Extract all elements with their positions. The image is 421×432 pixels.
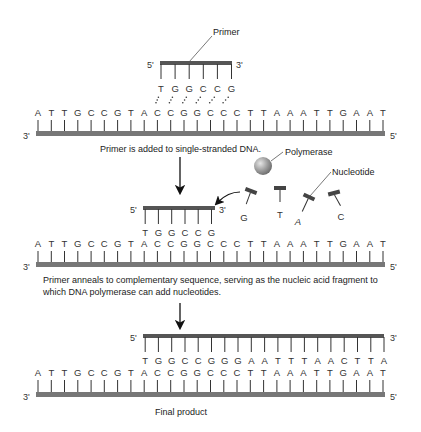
template-base: T bbox=[247, 238, 253, 249]
template-base: T bbox=[48, 367, 54, 378]
template-base: T bbox=[327, 238, 333, 249]
template-base: C bbox=[234, 367, 241, 378]
primer-strand: 5' 3' TGGCCG bbox=[147, 60, 243, 94]
primer-5-prime-label: 5' bbox=[130, 205, 137, 215]
template-base: T bbox=[314, 367, 320, 378]
primer-base: C bbox=[214, 83, 221, 94]
template-base: T bbox=[62, 107, 68, 118]
template-base: A bbox=[367, 238, 374, 249]
template-strand: ATTGCCGTACCGGCCCTTAAATTGAAT 3' 5' bbox=[23, 238, 397, 272]
template-base: C bbox=[234, 107, 241, 118]
primer-base: G bbox=[155, 227, 162, 238]
template-base: C bbox=[101, 238, 108, 249]
panel-1: Primer 5' 3' TGGCCG ATTGCCGTACCGGCCCTTAA… bbox=[23, 27, 397, 154]
free-nucleotide-g bbox=[241, 187, 258, 206]
template-base: G bbox=[114, 107, 121, 118]
template-3-prime-label: 3' bbox=[23, 262, 30, 272]
template-base: C bbox=[167, 367, 174, 378]
new-strand-3-prime-label: 3' bbox=[390, 333, 397, 343]
template-base: C bbox=[207, 107, 214, 118]
template-base: G bbox=[180, 367, 187, 378]
primer-label: Primer bbox=[213, 27, 240, 37]
template-base: T bbox=[261, 107, 267, 118]
template-base: G bbox=[114, 238, 121, 249]
template-base: A bbox=[300, 107, 307, 118]
template-base: A bbox=[35, 238, 42, 249]
template-base: T bbox=[62, 367, 68, 378]
new-strand-base: T bbox=[288, 355, 294, 366]
template-base: G bbox=[340, 367, 347, 378]
template-base: G bbox=[74, 107, 81, 118]
template-base: T bbox=[247, 107, 253, 118]
template-base: T bbox=[128, 107, 134, 118]
template-base: C bbox=[101, 107, 108, 118]
template-base: T bbox=[247, 367, 253, 378]
template-base: A bbox=[353, 238, 360, 249]
template-base: A bbox=[353, 367, 360, 378]
template-base: A bbox=[141, 367, 148, 378]
new-strand-base: T bbox=[301, 355, 307, 366]
curved-add-arrow bbox=[218, 192, 240, 202]
template-base: A bbox=[274, 107, 281, 118]
template-base: T bbox=[128, 238, 134, 249]
template-base: A bbox=[367, 107, 374, 118]
new-strand-base: T bbox=[355, 355, 361, 366]
template-base: T bbox=[327, 107, 333, 118]
new-strand-base: G bbox=[234, 355, 241, 366]
new-strand-base: T bbox=[275, 355, 281, 366]
template-base: A bbox=[367, 367, 374, 378]
primer-base: C bbox=[182, 227, 189, 238]
template-base: A bbox=[287, 367, 294, 378]
free-nucleotide-t bbox=[274, 186, 286, 202]
primer-base: G bbox=[168, 227, 175, 238]
template-strand: ATTGCCGTACCGGCCCTTAAATTGAAT 3' 5' bbox=[23, 107, 397, 141]
template-base: C bbox=[234, 238, 241, 249]
new-strand-base: C bbox=[195, 355, 202, 366]
template-base: C bbox=[220, 107, 227, 118]
new-strand: 5' 3' TGGCCGGGAATTTAACTTA bbox=[130, 333, 397, 366]
panel-2: Polymerase Nucleotide G T A C 5' 3' bbox=[23, 147, 397, 297]
template-backbone bbox=[36, 392, 385, 397]
primer-label-leader bbox=[189, 36, 212, 62]
annealed-primer: 5' 3' TGGCCG bbox=[130, 205, 226, 238]
new-strand-base: T bbox=[368, 355, 374, 366]
template-base: C bbox=[101, 367, 108, 378]
nucleotide-label-leader bbox=[310, 172, 331, 196]
template-base: C bbox=[167, 107, 174, 118]
template-base: A bbox=[35, 367, 42, 378]
primer-3-prime-label: 3' bbox=[236, 60, 243, 70]
new-strand-base: A bbox=[328, 355, 335, 366]
template-base: C bbox=[154, 107, 161, 118]
template-base: T bbox=[327, 367, 333, 378]
panel-2-caption-line-2: which DNA polymerase can add nucleotides… bbox=[42, 287, 221, 297]
template-base: T bbox=[380, 367, 386, 378]
template-base: C bbox=[220, 367, 227, 378]
panel-2-caption-line-1: Primer anneals to complementary sequence… bbox=[43, 275, 378, 285]
template-base: A bbox=[353, 107, 360, 118]
new-strand-base: C bbox=[182, 355, 189, 366]
template-backbone bbox=[36, 131, 385, 136]
hydrogen-bond-dots bbox=[155, 97, 229, 104]
template-base: A bbox=[141, 238, 148, 249]
template-base: G bbox=[114, 367, 121, 378]
template-5-prime-label: 5' bbox=[390, 131, 397, 141]
template-3-prime-label: 3' bbox=[23, 392, 30, 402]
new-strand-5-prime-label: 5' bbox=[130, 333, 137, 343]
new-strand-base: G bbox=[221, 355, 228, 366]
template-base: T bbox=[48, 107, 54, 118]
template-base: T bbox=[62, 238, 68, 249]
template-base: A bbox=[300, 238, 307, 249]
template-base: C bbox=[207, 367, 214, 378]
template-base: G bbox=[340, 107, 347, 118]
primer-backbone bbox=[160, 61, 232, 65]
primer-base: G bbox=[186, 83, 193, 94]
template-base: A bbox=[141, 107, 148, 118]
template-base: T bbox=[314, 107, 320, 118]
panel-3: 5' 3' TGGCCGGGAATTTAACTTA ATTGCCGTACCGGC… bbox=[23, 333, 397, 417]
primer-base: T bbox=[158, 83, 164, 94]
template-base: C bbox=[88, 107, 95, 118]
panel-1-caption: Primer is added to single-stranded DNA. bbox=[100, 144, 261, 154]
primer-5-prime-label: 5' bbox=[147, 60, 154, 70]
template-base: T bbox=[380, 238, 386, 249]
primer-base: C bbox=[200, 83, 207, 94]
